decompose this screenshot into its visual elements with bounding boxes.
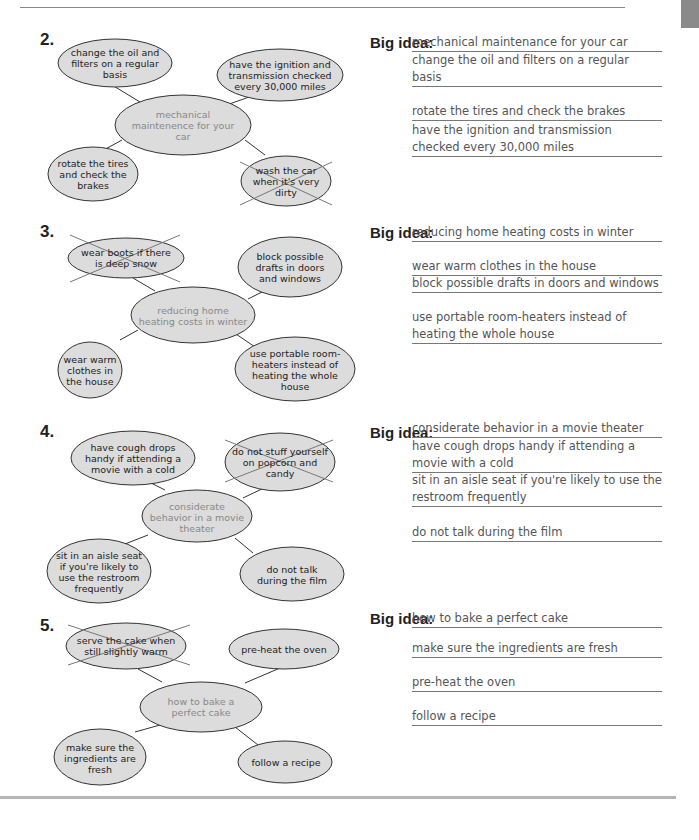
exercise-5: 5. serve the cake when still slightly wa… (0, 620, 699, 795)
idea-map: wear boots if there is deep snow block p… (40, 222, 360, 412)
answer-line-3[interactable]: do not talk during the film (412, 524, 662, 542)
big-idea-answer[interactable]: considerate behavior in a movie theater (412, 420, 662, 438)
idea-map: change the oil and filters on a regular … (40, 30, 360, 220)
node-bottom-right-crossed: wash the car when it's very dirty (251, 160, 321, 202)
big-idea-answer[interactable]: mechanical maintenance for your car (412, 34, 662, 52)
idea-map: serve the cake when still slightly warm … (40, 620, 360, 810)
answer-line-2[interactable]: block possible drafts in doors and windo… (412, 275, 662, 293)
node-top-right: block possible drafts in doors and windo… (248, 244, 332, 290)
idea-map: have cough drops handy if attending a mo… (40, 422, 360, 612)
answer-line-2[interactable]: sit in an aisle seat if you're likely to… (412, 472, 662, 507)
node-bottom-right: use portable room-heaters instead of hea… (242, 344, 348, 396)
exercise-4: 4. have cough drops handy if attending a… (0, 422, 699, 612)
big-idea-answer[interactable]: how to bake a perfect cake (412, 610, 662, 628)
answer-line-2[interactable]: rotate the tires and check the brakes (412, 103, 662, 121)
node-bottom-left: make sure the ingredients are fresh (62, 736, 138, 780)
exercise-2: 2. change the oil and filters on a regul… (0, 30, 699, 210)
node-center: mechanical maintenence for your car (125, 108, 241, 142)
header-rule (20, 7, 625, 8)
node-top-left: have cough drops handy if attending a mo… (80, 438, 186, 478)
big-idea-answer[interactable]: reducing home heating costs in winter (412, 224, 662, 242)
chapter-side-tab (681, 0, 699, 28)
node-top-left-crossed: serve the cake when still slightly warm (74, 632, 178, 660)
node-bottom-left: sit in an aisle seat if you're likely to… (52, 548, 146, 596)
answer-line-1[interactable]: have cough drops handy if attending a mo… (412, 438, 662, 473)
node-top-left: change the oil and filters on a regular … (70, 43, 160, 83)
node-top-right-crossed: do not stuff yourself on popcorn and can… (232, 440, 328, 484)
answer-line-1[interactable]: wear warm clothes in the house (412, 258, 662, 276)
node-top-right: have the ignition and transmission check… (227, 52, 333, 98)
node-bottom-right: do not talk during the film (250, 560, 334, 590)
node-top-right: pre-heat the oven (236, 640, 332, 658)
node-bottom-right: follow a recipe (244, 753, 328, 771)
answer-line-3[interactable]: have the ignition and transmission check… (412, 122, 662, 157)
answer-line-1[interactable]: make sure the ingredients are fresh (412, 640, 662, 658)
node-bottom-left: rotate the tires and check the brakes (53, 152, 133, 196)
exercise-3: 3. wear boots if there is deep snow bloc… (0, 222, 699, 402)
answer-line-3[interactable]: follow a recipe (412, 708, 662, 726)
footer-rule (0, 796, 676, 799)
answer-line-1[interactable]: change the oil and filters on a regular … (412, 52, 662, 87)
node-center: reducing home heating costs in winter (138, 300, 248, 332)
answer-line-2[interactable]: pre-heat the oven (412, 674, 662, 692)
node-top-left-crossed: wear boots if there is deep snow (78, 244, 174, 272)
node-bottom-left: wear warm clothes in the house (62, 348, 118, 392)
node-center: how to bake a perfect cake (158, 692, 244, 722)
answer-line-3[interactable]: use portable room-heaters instead of hea… (412, 309, 662, 344)
node-center: considerate behavior in a movie theater (148, 502, 246, 532)
